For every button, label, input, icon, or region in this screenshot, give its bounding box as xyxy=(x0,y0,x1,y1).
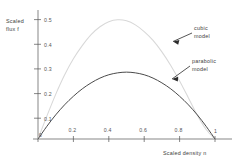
series-curve-parabolic-model xyxy=(38,72,215,139)
annotation-cubic-line2: model xyxy=(194,32,210,40)
origin-label: 0 xyxy=(39,132,42,139)
x-tick-label-1: 0.4 xyxy=(104,127,112,134)
annotation-cubic-line1: cubic xyxy=(194,24,210,32)
x-tick-label-0: 0.2 xyxy=(68,127,76,134)
annotation-parabolic-line1: parabolic xyxy=(192,57,216,65)
series-curve-cubic-model xyxy=(38,20,215,139)
y-tick-label-1: 0.2 xyxy=(44,91,52,98)
x-tick-label-3: 0.8 xyxy=(175,127,183,134)
x-max-label: 1 xyxy=(214,128,217,135)
x-axis-title: Scaled density n xyxy=(163,150,207,157)
chart-figure: Scaled flux f Scaled density n 0.1 0.2 0… xyxy=(0,0,236,164)
annotation-arrow-parabolic xyxy=(172,66,190,82)
y-tick-label-0: 0.1 xyxy=(44,116,52,123)
y-tick-label-2: 0.3 xyxy=(44,66,52,73)
y-axis-title: Scaled flux f xyxy=(6,17,24,33)
y-tick-label-4: 0.5 xyxy=(44,17,52,24)
annotation-arrow-cubic xyxy=(173,33,192,45)
annotation-label-cubic: cubic model xyxy=(194,24,210,40)
y-axis-title-line1: Scaled xyxy=(6,17,24,25)
y-tick-label-3: 0.4 xyxy=(44,42,52,49)
x-tick-label-2: 0.6 xyxy=(139,127,147,134)
y-axis-ticks xyxy=(34,20,41,119)
annotation-parabolic-line2: model xyxy=(192,65,216,73)
annotation-label-parabolic: parabolic model xyxy=(192,57,216,73)
y-axis-title-line2: flux f xyxy=(6,25,24,33)
